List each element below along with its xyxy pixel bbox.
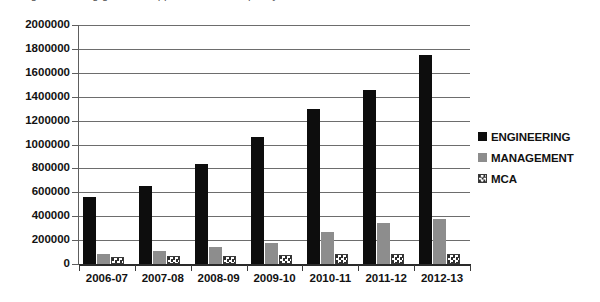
y-axis-labels: 2000000180000016000001400000120000010000… bbox=[0, 0, 70, 302]
gridline bbox=[79, 49, 470, 50]
y-tick-label: 1600000 bbox=[2, 67, 70, 79]
gridline bbox=[79, 97, 470, 98]
y-tick-label: 200000 bbox=[2, 234, 70, 246]
gridline bbox=[79, 240, 470, 241]
bar-engineering-2008-09 bbox=[195, 164, 208, 264]
chart-screenshot: Figure showing growth in approved intake… bbox=[0, 0, 600, 302]
y-tick-label: 1000000 bbox=[2, 139, 70, 151]
engineering-swatch-icon bbox=[478, 132, 487, 141]
bar-mca-2011-12 bbox=[391, 254, 404, 264]
x-tick-mark bbox=[414, 265, 415, 271]
bar-engineering-2011-12 bbox=[363, 90, 376, 264]
y-tick-label: 600000 bbox=[2, 186, 70, 198]
bar-management-2009-10 bbox=[265, 243, 278, 264]
plot-area bbox=[79, 25, 470, 264]
y-tick-label: 2000000 bbox=[2, 19, 70, 31]
bar-management-2012-13 bbox=[433, 219, 446, 264]
x-tick-mark bbox=[191, 265, 192, 271]
x-tick-mark bbox=[302, 265, 303, 271]
bar-engineering-2009-10 bbox=[251, 137, 264, 264]
gridline bbox=[79, 192, 470, 193]
legend-label: MCA bbox=[491, 173, 517, 185]
gridline bbox=[79, 73, 470, 74]
bar-management-2011-12 bbox=[377, 223, 390, 264]
bar-mca-2012-13 bbox=[447, 254, 460, 264]
gridline bbox=[79, 25, 470, 26]
mca-swatch-icon bbox=[478, 174, 487, 183]
bar-engineering-2010-11 bbox=[307, 109, 320, 264]
x-tick-label: 2012-13 bbox=[397, 273, 487, 285]
bar-management-2008-09 bbox=[209, 247, 222, 264]
gridline bbox=[79, 168, 470, 169]
x-axis-line bbox=[79, 264, 471, 266]
x-tick-mark bbox=[135, 265, 136, 271]
legend-item-engineering[interactable]: ENGINEERING bbox=[478, 126, 600, 147]
bar-mca-2009-10 bbox=[279, 255, 292, 264]
legend-item-mca[interactable]: MCA bbox=[478, 168, 600, 189]
bar-mca-2008-09 bbox=[223, 256, 236, 264]
bar-management-2007-08 bbox=[153, 251, 166, 264]
x-tick-mark bbox=[79, 265, 80, 271]
gridline bbox=[79, 121, 470, 122]
y-tick-label: 1800000 bbox=[2, 43, 70, 55]
y-tick-label: 400000 bbox=[2, 210, 70, 222]
bar-management-2010-11 bbox=[321, 232, 334, 264]
legend-label: ENGINEERING bbox=[491, 131, 570, 143]
gridline bbox=[79, 145, 470, 146]
legend-item-management[interactable]: MANAGEMENT bbox=[478, 147, 600, 168]
management-swatch-icon bbox=[478, 153, 487, 162]
bar-engineering-2012-13 bbox=[419, 55, 432, 264]
y-tick-label: 1400000 bbox=[2, 91, 70, 103]
x-tick-mark bbox=[470, 265, 471, 271]
clipped-caption: Figure showing growth in approved intake… bbox=[0, 0, 600, 3]
bar-mca-2010-11 bbox=[335, 254, 348, 264]
y-tick-label: 1200000 bbox=[2, 115, 70, 127]
y-tick-label: 0 bbox=[2, 258, 70, 270]
bar-engineering-2006-07 bbox=[83, 197, 96, 264]
legend-label: MANAGEMENT bbox=[491, 152, 574, 164]
gridline bbox=[79, 216, 470, 217]
x-tick-mark bbox=[358, 265, 359, 271]
bar-mca-2007-08 bbox=[167, 256, 180, 264]
bar-management-2006-07 bbox=[97, 254, 110, 264]
y-tick-label: 800000 bbox=[2, 162, 70, 174]
chart-legend: ENGINEERINGMANAGEMENTMCA bbox=[478, 126, 600, 189]
bar-engineering-2007-08 bbox=[139, 186, 152, 264]
x-tick-mark bbox=[247, 265, 248, 271]
